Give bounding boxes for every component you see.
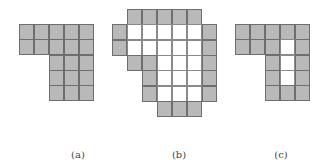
gray-cell bbox=[19, 39, 34, 55]
gray-cell bbox=[49, 39, 64, 55]
gray-cell bbox=[295, 85, 310, 101]
caption-b: (b) bbox=[159, 149, 199, 160]
gray-cell bbox=[79, 85, 94, 101]
gray-cell bbox=[19, 24, 34, 40]
gray-cell bbox=[295, 55, 310, 71]
gray-cell bbox=[295, 39, 310, 55]
gray-cell bbox=[79, 39, 94, 55]
gray-cell bbox=[280, 85, 295, 101]
gray-cell bbox=[127, 9, 142, 25]
gray-cell bbox=[34, 24, 49, 40]
white-cell bbox=[280, 55, 295, 71]
gray-cell bbox=[187, 101, 202, 117]
gray-cell bbox=[295, 24, 310, 40]
white-cell bbox=[187, 70, 202, 86]
gray-cell bbox=[34, 39, 49, 55]
gray-cell bbox=[64, 24, 79, 40]
gray-cell bbox=[265, 24, 280, 40]
white-cell bbox=[172, 24, 187, 40]
gray-cell bbox=[265, 70, 280, 86]
gray-cell bbox=[250, 39, 265, 55]
gray-cell bbox=[49, 55, 64, 71]
gray-cell bbox=[142, 9, 157, 25]
gray-cell bbox=[64, 70, 79, 86]
white-cell bbox=[187, 55, 202, 71]
gray-cell bbox=[127, 55, 142, 71]
gray-cell bbox=[202, 70, 217, 86]
gray-cell bbox=[157, 101, 172, 117]
gray-cell bbox=[265, 85, 280, 101]
gray-cell bbox=[142, 55, 157, 71]
white-cell bbox=[172, 55, 187, 71]
white-cell bbox=[142, 24, 157, 40]
white-cell bbox=[157, 40, 172, 56]
gray-cell bbox=[112, 24, 127, 40]
white-cell bbox=[157, 70, 172, 86]
gray-cell bbox=[49, 24, 64, 40]
gray-cell bbox=[49, 70, 64, 86]
white-cell bbox=[187, 86, 202, 102]
gray-cell bbox=[79, 70, 94, 86]
gray-cell bbox=[142, 86, 157, 102]
white-cell bbox=[157, 86, 172, 102]
gray-cell bbox=[79, 55, 94, 71]
gray-cell bbox=[64, 39, 79, 55]
white-cell bbox=[187, 24, 202, 40]
gray-cell bbox=[157, 9, 172, 25]
gray-cell bbox=[235, 24, 250, 40]
gray-cell bbox=[202, 24, 217, 40]
caption-c: (c) bbox=[261, 149, 301, 160]
white-cell bbox=[280, 70, 295, 86]
gray-cell bbox=[250, 24, 265, 40]
gray-cell bbox=[202, 86, 217, 102]
gray-cell bbox=[265, 39, 280, 55]
white-cell bbox=[157, 55, 172, 71]
white-cell bbox=[172, 86, 187, 102]
gray-cell bbox=[142, 70, 157, 86]
white-cell bbox=[127, 24, 142, 40]
gray-cell bbox=[49, 85, 64, 101]
gray-cell bbox=[112, 40, 127, 56]
white-cell bbox=[142, 40, 157, 56]
gray-cell bbox=[64, 85, 79, 101]
gray-cell bbox=[79, 24, 94, 40]
gray-cell bbox=[64, 55, 79, 71]
gray-cell bbox=[280, 24, 295, 40]
gray-cell bbox=[187, 9, 202, 25]
gray-cell bbox=[202, 55, 217, 71]
white-cell bbox=[172, 70, 187, 86]
white-cell bbox=[280, 39, 295, 55]
gray-cell bbox=[265, 55, 280, 71]
gray-cell bbox=[295, 70, 310, 86]
white-cell bbox=[172, 40, 187, 56]
gray-cell bbox=[235, 39, 250, 55]
caption-a: (a) bbox=[58, 149, 98, 160]
white-cell bbox=[157, 24, 172, 40]
white-cell bbox=[187, 40, 202, 56]
gray-cell bbox=[172, 101, 187, 117]
gray-cell bbox=[202, 40, 217, 56]
white-cell bbox=[127, 40, 142, 56]
gray-cell bbox=[172, 9, 187, 25]
